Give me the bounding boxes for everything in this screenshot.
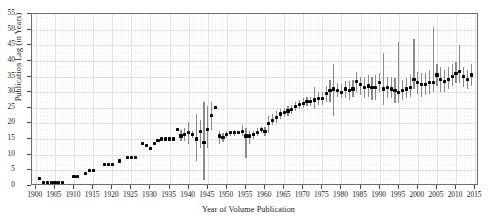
data-point xyxy=(164,137,167,140)
data-point xyxy=(199,130,202,133)
gridline-major-horizontal xyxy=(32,123,477,124)
gridline-minor-vertical xyxy=(299,14,300,184)
data-point xyxy=(355,80,358,83)
gridline-minor-vertical xyxy=(139,14,140,184)
data-point xyxy=(466,78,469,81)
gridline-minor-vertical xyxy=(254,14,255,184)
gridline-minor-vertical xyxy=(40,14,41,184)
data-point xyxy=(72,175,75,178)
gridline-minor-vertical xyxy=(158,14,159,184)
y-axis-tick xyxy=(27,13,31,14)
data-point xyxy=(183,133,186,136)
gridline-minor-vertical xyxy=(147,14,148,184)
data-point xyxy=(344,87,347,90)
x-axis-tick xyxy=(417,185,418,189)
data-point xyxy=(439,78,442,81)
data-point xyxy=(435,73,438,76)
y-axis-tick xyxy=(27,122,31,123)
gridline-major-vertical xyxy=(341,14,342,184)
y-axis-tick xyxy=(27,107,31,108)
data-point xyxy=(141,142,144,145)
data-point xyxy=(374,86,377,89)
gridline-minor-vertical xyxy=(66,14,67,184)
gridline-major-vertical xyxy=(36,14,37,184)
gridline-minor-vertical xyxy=(296,14,297,184)
gridline-minor-vertical xyxy=(223,14,224,184)
data-point xyxy=(409,86,412,89)
gridline-minor-vertical xyxy=(426,14,427,184)
data-point xyxy=(202,141,205,144)
data-point xyxy=(340,91,343,94)
gridline-minor-vertical xyxy=(108,14,109,184)
data-point xyxy=(84,172,87,175)
data-point xyxy=(416,81,419,84)
data-point xyxy=(260,128,263,131)
data-point xyxy=(271,119,274,122)
data-point xyxy=(298,103,301,106)
data-point xyxy=(378,81,381,84)
gridline-minor-vertical xyxy=(364,14,365,184)
gridline-minor-vertical xyxy=(101,14,102,184)
gridline-major-vertical xyxy=(150,14,151,184)
data-point xyxy=(397,91,400,94)
gridline-minor-vertical xyxy=(47,14,48,184)
data-point xyxy=(210,114,213,117)
data-point xyxy=(286,109,289,112)
gridline-minor-vertical xyxy=(353,14,354,184)
gridline-minor-vertical xyxy=(261,14,262,184)
error-bar xyxy=(245,128,246,158)
gridline-minor-vertical xyxy=(345,14,346,184)
data-point xyxy=(256,131,259,134)
data-point xyxy=(294,105,297,108)
data-point xyxy=(153,142,156,145)
gridline-major-horizontal xyxy=(32,108,477,109)
gridline-major-vertical xyxy=(227,14,228,184)
data-point xyxy=(160,137,163,140)
data-point xyxy=(401,89,404,92)
y-axis-tick xyxy=(27,76,31,77)
data-point xyxy=(195,137,198,140)
x-axis-tick xyxy=(264,185,265,189)
gridline-major-vertical xyxy=(93,14,94,184)
data-point xyxy=(447,78,450,81)
gridline-minor-vertical xyxy=(391,14,392,184)
x-axis-tick xyxy=(455,185,456,189)
data-point xyxy=(206,128,209,131)
data-point xyxy=(191,133,194,136)
data-point xyxy=(241,130,244,133)
data-point xyxy=(107,163,110,166)
gridline-minor-vertical xyxy=(445,14,446,184)
gridline-minor-vertical xyxy=(357,14,358,184)
chart-figure: Publication Lag (in Years) 1900190519101… xyxy=(0,0,497,223)
data-point xyxy=(103,163,106,166)
x-axis-tick xyxy=(73,185,74,189)
data-point xyxy=(126,156,129,159)
data-point xyxy=(42,181,45,184)
data-point xyxy=(218,134,221,137)
data-point xyxy=(302,102,305,105)
gridline-minor-vertical xyxy=(85,14,86,184)
gridline-major-vertical xyxy=(265,14,266,184)
gridline-minor-vertical xyxy=(177,14,178,184)
x-axis-tick xyxy=(283,185,284,189)
y-axis-tick xyxy=(27,29,31,30)
data-point xyxy=(321,97,324,100)
data-point xyxy=(46,181,49,184)
gridline-minor-vertical xyxy=(250,14,251,184)
data-point xyxy=(290,108,293,111)
gridline-minor-vertical xyxy=(105,14,106,184)
x-axis-tick xyxy=(302,185,303,189)
gridline-minor-vertical xyxy=(429,14,430,184)
gridline-major-horizontal xyxy=(32,170,477,171)
data-point xyxy=(390,87,393,90)
gridline-minor-vertical xyxy=(32,14,33,184)
gridline-minor-vertical xyxy=(78,14,79,184)
data-point xyxy=(176,128,179,131)
data-point xyxy=(134,156,137,159)
x-axis-tick xyxy=(474,185,475,189)
data-point xyxy=(275,116,278,119)
data-point xyxy=(336,89,339,92)
gridline-minor-vertical xyxy=(166,14,167,184)
gridline-major-vertical xyxy=(246,14,247,184)
x-axis-tick xyxy=(398,185,399,189)
